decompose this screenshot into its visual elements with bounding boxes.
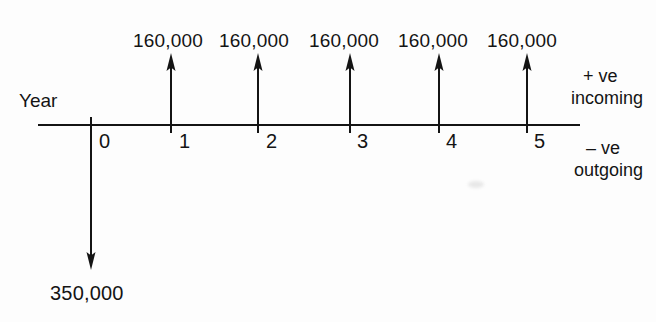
flow-amount-year-3: 160,000 bbox=[309, 31, 379, 50]
cash-flow-diagram: 160,000 160,000 160,000 160,000 160,000 … bbox=[0, 0, 656, 322]
cash-flow-arrow-year-3 bbox=[346, 53, 355, 133]
axis-label-year: Year bbox=[19, 91, 57, 110]
tick-label-4: 4 bbox=[446, 131, 457, 151]
tick-label-2: 2 bbox=[266, 131, 277, 151]
legend-negative-sign: – ve bbox=[586, 139, 620, 157]
legend-positive-word: incoming bbox=[571, 89, 643, 107]
cash-flow-arrow-year-2 bbox=[254, 53, 263, 133]
tick-label-5: 5 bbox=[534, 131, 545, 151]
flow-amount-year-4: 160,000 bbox=[398, 31, 468, 50]
cash-flow-arrow-year-0 bbox=[87, 117, 96, 270]
investment-amount-year-0: 350,000 bbox=[50, 283, 124, 303]
cash-flow-arrow-year-5 bbox=[523, 53, 532, 133]
legend-positive-sign: + ve bbox=[583, 67, 618, 85]
cash-flow-arrow-year-1 bbox=[167, 53, 176, 133]
flow-amount-year-2: 160,000 bbox=[219, 31, 289, 50]
tick-label-1: 1 bbox=[179, 131, 190, 151]
tick-label-0: 0 bbox=[99, 131, 110, 151]
flow-amount-year-1: 160,000 bbox=[133, 31, 203, 50]
legend-negative-word: outgoing bbox=[574, 161, 643, 179]
tick-label-3: 3 bbox=[357, 131, 368, 151]
cash-flow-arrow-year-4 bbox=[435, 53, 444, 133]
scan-artifact bbox=[468, 181, 484, 188]
flow-amount-year-5: 160,000 bbox=[487, 31, 557, 50]
